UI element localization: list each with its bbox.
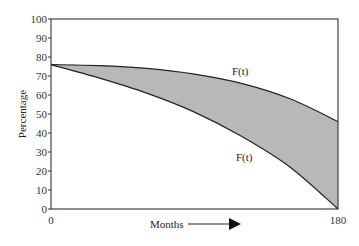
y-tick-label: 60 <box>36 89 48 101</box>
lower-curve-label: F(t) <box>236 151 253 164</box>
y-tick-label: 70 <box>36 70 48 82</box>
arrow-icon <box>188 218 241 230</box>
chart: 0102030405060708090100 0 180 Percentage … <box>0 0 359 246</box>
y-tick-label: 80 <box>36 51 48 63</box>
y-tick-label: 0 <box>42 203 48 215</box>
y-tick-label: 20 <box>36 165 48 177</box>
y-tick-label: 100 <box>31 13 48 25</box>
y-axis-ticks: 0102030405060708090100 <box>31 13 52 215</box>
y-tick-label: 50 <box>36 108 48 120</box>
y-tick-label: 90 <box>36 32 48 44</box>
y-axis-label: Percentage <box>16 90 28 138</box>
x-tick-180: 180 <box>330 214 347 226</box>
x-tick-0: 0 <box>48 214 54 226</box>
y-tick-label: 10 <box>36 184 48 196</box>
y-tick-label: 30 <box>36 146 48 158</box>
upper-curve-label: F(t) <box>232 65 249 78</box>
x-axis-label: Months <box>150 218 184 230</box>
y-tick-label: 40 <box>36 127 48 139</box>
fill-between-area <box>51 65 338 209</box>
